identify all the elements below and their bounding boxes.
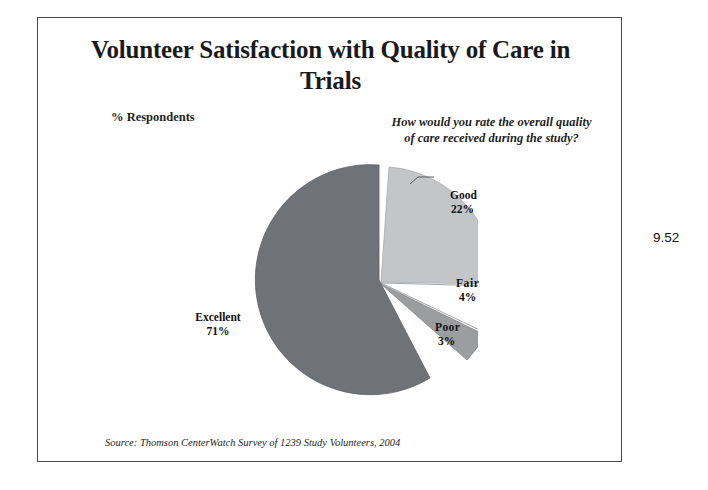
slide-frame: Volunteer Satisfaction with Quality of C… — [37, 17, 622, 462]
pie-chart — [218, 128, 478, 398]
pie-chart-svg — [218, 128, 478, 398]
pie-label-poor: Poor 3% — [435, 320, 460, 348]
pie-label-excellent: Excellent 71% — [178, 310, 258, 338]
page-title: Volunteer Satisfaction with Quality of C… — [78, 34, 583, 96]
pie-label-fair-value: 4% — [459, 290, 479, 304]
pie-label-excellent-value: 71% — [178, 324, 258, 338]
axis-note-label: % Respondents — [111, 110, 195, 125]
pie-label-poor-name: Poor — [435, 320, 460, 334]
pie-label-good-name: Good — [450, 188, 477, 202]
pie-label-excellent-name: Excellent — [178, 310, 258, 324]
pie-label-fair: Fair 4% — [456, 276, 479, 304]
pie-label-good-value: 22% — [451, 202, 477, 216]
page-number: 9.52 — [653, 230, 679, 245]
pie-label-fair-name: Fair — [456, 276, 479, 290]
source-note: Source: Thomson CenterWatch Survey of 12… — [105, 437, 400, 448]
pie-slice-good — [381, 167, 478, 284]
pie-label-good: Good 22% — [448, 188, 477, 216]
pie-label-poor-value: 3% — [438, 334, 460, 348]
